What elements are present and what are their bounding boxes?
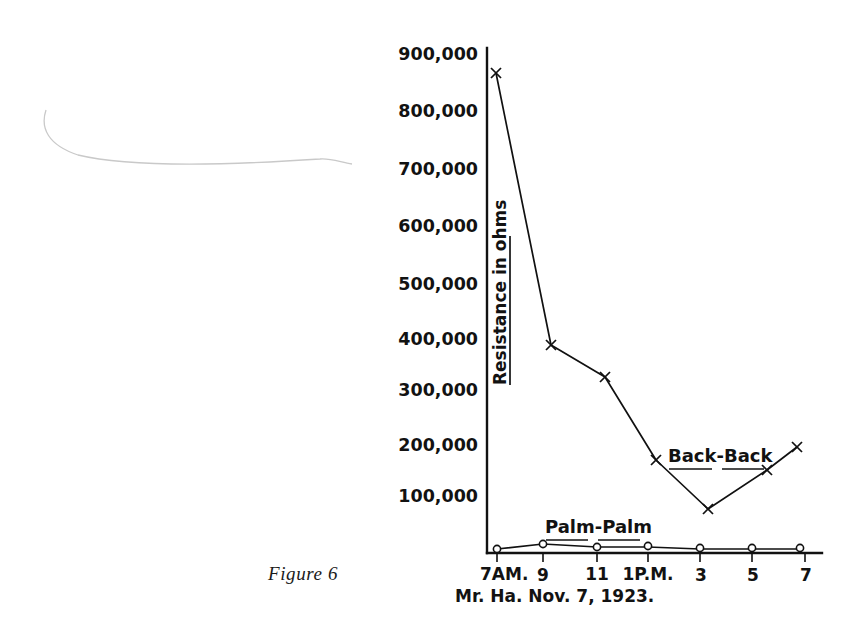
palm-palm-marker-7am xyxy=(493,545,500,552)
y-tick-label-600000: 600,000 xyxy=(398,216,478,236)
y-axis-title: Resistance in ohms xyxy=(490,200,510,385)
y-tick-label-400000: 400,000 xyxy=(398,329,478,349)
y-axis-title-group: Resistance in ohms xyxy=(490,200,510,385)
back-back-marker-11 xyxy=(600,372,610,382)
y-tick-label-100000: 100,000 xyxy=(398,486,478,506)
y-tick-label-300000: 300,000 xyxy=(398,380,478,400)
x-tick-label-1pm: 1P.M. xyxy=(623,564,674,584)
scan-artifact-curve xyxy=(44,110,352,164)
figure-number-caption: Figure 6 xyxy=(268,563,338,585)
x-tick-label-7: 7 xyxy=(800,565,812,585)
back-back-line xyxy=(496,73,797,509)
x-tick-label-9: 9 xyxy=(537,565,549,585)
x-tick-label-7am: 7AM. xyxy=(480,564,528,584)
subject-date-caption: Mr. Ha. Nov. 7, 1923. xyxy=(455,586,654,606)
y-tick-label-800000: 800,000 xyxy=(398,101,478,121)
y-tick-label-200000: 200,000 xyxy=(398,435,478,455)
series-back-back: Back-Back xyxy=(491,68,802,514)
back-back-marker-5 xyxy=(762,465,772,475)
figure-6-container: 900,000 800,000 700,000 600,000 500,000 … xyxy=(0,0,845,625)
palm-palm-marker-9 xyxy=(539,540,546,547)
y-tick-label-500000: 500,000 xyxy=(398,274,478,294)
back-back-marker-3 xyxy=(703,504,713,514)
series-label-palm-palm: Palm-Palm xyxy=(545,516,652,537)
y-tick-label-700000: 700,000 xyxy=(398,159,478,179)
palm-palm-marker-1pm xyxy=(644,542,651,549)
x-tick-label-3: 3 xyxy=(695,565,707,585)
y-tick-label-900000: 900,000 xyxy=(398,44,478,64)
hand-drawn-line-chart: 900,000 800,000 700,000 600,000 500,000 … xyxy=(0,0,845,625)
palm-palm-marker-3 xyxy=(696,544,703,551)
series-label-back-back: Back-Back xyxy=(668,445,774,466)
series-palm-palm: Palm-Palm xyxy=(493,516,803,553)
back-back-marker-7 xyxy=(792,442,802,452)
x-tick-label-11: 11 xyxy=(585,564,609,584)
x-tick-label-5: 5 xyxy=(747,565,759,585)
palm-palm-marker-7 xyxy=(796,544,803,551)
palm-palm-marker-5 xyxy=(748,544,755,551)
palm-palm-marker-11 xyxy=(593,543,600,550)
back-back-marker-1pm xyxy=(651,455,661,465)
